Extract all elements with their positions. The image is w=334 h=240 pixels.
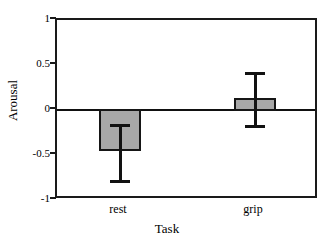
error-bar-stem-grip bbox=[254, 72, 257, 128]
error-bar-cap-upper-grip bbox=[245, 72, 265, 75]
error-bar-cap-lower-grip bbox=[245, 125, 265, 128]
zero-baseline bbox=[57, 109, 315, 111]
x-axis-title: Task bbox=[0, 222, 334, 235]
error-bar-stem-rest bbox=[119, 124, 122, 183]
y-tick-label-1: 1 bbox=[0, 13, 50, 24]
error-bar-cap-lower-rest bbox=[110, 180, 130, 183]
plot-area bbox=[55, 18, 317, 198]
y-tick-label-0: 0 bbox=[0, 103, 50, 114]
y-tick-label-neg-1: -1 bbox=[0, 193, 50, 204]
x-tick-label-rest: rest bbox=[78, 203, 158, 215]
y-tick-label-neg-0-5: -0.5 bbox=[0, 148, 50, 159]
error-bar-cap-upper-rest bbox=[110, 124, 130, 127]
bar-chart: Arousal 1 0.5 0 -0.5 -1 rest grip Task bbox=[0, 0, 334, 240]
x-tick-label-grip: grip bbox=[213, 203, 293, 215]
y-tick-label-0-5: 0.5 bbox=[0, 58, 50, 69]
